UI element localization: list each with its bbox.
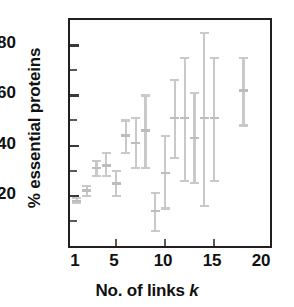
y-axis-title: % essential proteins — [25, 13, 45, 243]
error-bar-cap — [82, 195, 91, 197]
x-axis-title-text: No. of links — [95, 281, 189, 300]
error-bar-cap — [161, 135, 170, 137]
y-axis-tick — [70, 119, 77, 121]
plot-frame — [68, 18, 272, 248]
plot-area — [70, 20, 270, 246]
x-axis-tick-label: 15 — [194, 252, 230, 269]
data-point-marker — [131, 142, 140, 145]
error-bar-cap — [200, 205, 209, 207]
error-bar-cap — [141, 167, 150, 169]
data-point-marker — [92, 167, 101, 170]
error-bar-cap — [239, 124, 248, 126]
error-bar-cap — [112, 195, 121, 197]
error-bar-cap — [92, 160, 101, 162]
x-axis-tick — [164, 239, 166, 246]
data-point-marker — [151, 210, 160, 213]
y-axis-tick — [70, 44, 79, 46]
x-axis-tick — [115, 239, 117, 246]
y-axis-tick — [70, 220, 77, 222]
error-bar-cap — [131, 117, 140, 119]
error-bar-cap — [190, 92, 199, 94]
y-axis-tick-label: 60 — [0, 84, 16, 101]
data-point-marker — [141, 129, 150, 132]
error-bar-cap — [121, 152, 130, 154]
data-point-marker — [121, 134, 130, 137]
x-axis-tick-label: 5 — [96, 252, 132, 269]
error-bar-cap — [112, 170, 121, 172]
y-axis-tick-label: 40 — [0, 135, 16, 152]
data-point-marker — [239, 89, 248, 92]
y-axis-tick — [70, 69, 77, 71]
error-bar-cap — [141, 94, 150, 96]
error-bar-cap — [180, 180, 189, 182]
data-point-marker — [200, 117, 209, 120]
error-bar-cap — [170, 79, 179, 81]
x-axis-title-variable: k — [189, 281, 198, 300]
error-bar-cap — [200, 32, 209, 34]
error-bar-cap — [170, 157, 179, 159]
y-axis-tick-label: 80 — [0, 34, 16, 51]
error-bar-cap — [102, 152, 111, 154]
error-bar-cap — [239, 57, 248, 59]
error-bar-cap — [151, 230, 160, 232]
chart-figure: % essential proteins No. of links k 2040… — [0, 0, 294, 307]
y-axis-tick — [70, 170, 77, 172]
error-bar-cap — [180, 57, 189, 59]
data-point-marker — [161, 172, 170, 175]
data-point-marker — [112, 182, 121, 185]
error-bar-cap — [151, 192, 160, 194]
error-bar-cap — [72, 202, 81, 204]
y-axis-tick — [70, 145, 79, 147]
data-point-marker — [170, 117, 179, 120]
x-axis-tick — [213, 239, 215, 246]
data-point-marker — [210, 117, 219, 120]
x-axis-tick-label: 10 — [145, 252, 181, 269]
y-axis-tick — [70, 94, 79, 96]
data-point-marker — [72, 200, 81, 203]
x-axis-tick-label: 1 — [57, 252, 93, 269]
error-bar-cap — [121, 119, 130, 121]
data-point-marker — [102, 164, 111, 167]
x-axis-title: No. of links k — [0, 281, 294, 301]
error-bar-cap — [82, 185, 91, 187]
error-bar-cap — [131, 167, 140, 169]
error-bar-cap — [210, 180, 219, 182]
error-bar-cap — [102, 175, 111, 177]
error-bar-cap — [210, 57, 219, 59]
error-bar-cap — [161, 207, 170, 209]
data-point-marker — [82, 189, 91, 192]
data-point-marker — [190, 137, 199, 140]
error-bar-cap — [190, 182, 199, 184]
x-axis-tick-label: 20 — [243, 252, 279, 269]
data-point-marker — [180, 117, 189, 120]
y-axis-tick-label: 20 — [0, 185, 16, 202]
error-bar-cap — [92, 175, 101, 177]
